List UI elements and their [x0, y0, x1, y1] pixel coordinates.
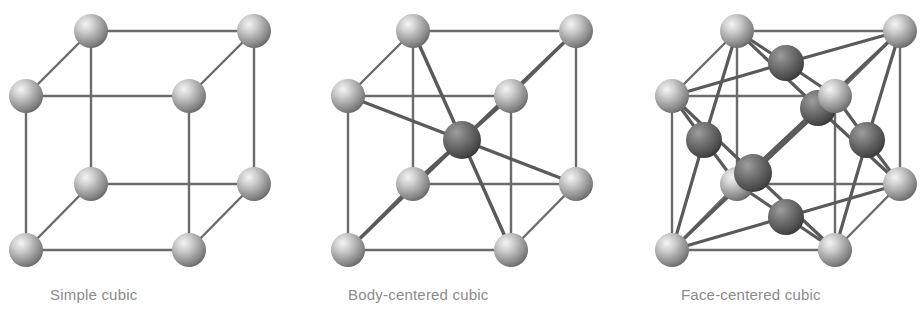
atom-corner	[396, 167, 430, 201]
atom-corner	[494, 79, 528, 113]
atom-corner	[559, 167, 593, 201]
atom-face-center	[734, 154, 772, 192]
atom-face-center	[686, 122, 722, 158]
label-simple-cubic: Simple cubic	[50, 286, 138, 303]
crystal-lattice-figure: Simple cubic	[0, 0, 922, 318]
atom-corner	[396, 14, 430, 48]
atom-corner	[720, 14, 754, 48]
atom-corner	[331, 79, 365, 113]
atom-face-center	[768, 45, 804, 81]
atom-corner	[883, 14, 917, 48]
atom-corner	[655, 79, 689, 113]
atom-corner	[818, 79, 852, 113]
atom-corner	[494, 233, 528, 267]
atom-corner	[655, 233, 689, 267]
label-body-centered-cubic: Body-centered cubic	[348, 286, 489, 303]
lattice-diagram-canvas: Simple cubic	[0, 0, 922, 318]
atom-face-center	[768, 199, 804, 235]
atom-corner	[818, 233, 852, 267]
atom-corner	[883, 167, 917, 201]
atom-corner	[331, 233, 365, 267]
atom-body-center	[443, 121, 481, 159]
label-face-centered-cubic: Face-centered cubic	[681, 286, 821, 303]
atom-face-center	[849, 122, 885, 158]
atom-corner	[559, 14, 593, 48]
